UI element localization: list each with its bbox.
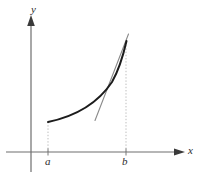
y-axis-label: y [31, 4, 36, 15]
x-axis-label: x [188, 145, 193, 156]
figure-canvas: y x a b [0, 0, 212, 178]
y-axis-arrowhead [27, 15, 35, 26]
tangent-line [95, 34, 129, 121]
function-plot-svg [0, 0, 212, 178]
x-axis-arrowhead [174, 148, 185, 155]
tick-label-b: b [122, 156, 128, 167]
tick-label-a: a [45, 156, 51, 167]
function-curve [48, 41, 127, 122]
